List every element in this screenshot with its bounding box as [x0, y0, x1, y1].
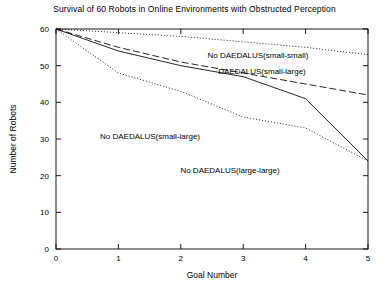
x-axis-ticks: 012345	[54, 29, 371, 263]
x-tick-label: 1	[116, 254, 121, 263]
y-tick-label: 10	[40, 208, 49, 217]
x-tick-label: 0	[54, 254, 59, 263]
series-paths	[56, 29, 368, 161]
axis-titles: Goal NumberNumber of Robots	[8, 105, 237, 280]
y-tick-label: 20	[40, 172, 49, 181]
x-tick-label: 2	[179, 254, 184, 263]
x-tick-label: 3	[241, 254, 246, 263]
y-tick-label: 50	[40, 62, 49, 71]
y-tick-label: 0	[45, 245, 50, 254]
x-tick-label: 4	[303, 254, 308, 263]
y-tick-label: 30	[40, 135, 49, 144]
y-tick-label: 60	[40, 25, 49, 34]
x-axis-title: Goal Number	[187, 270, 238, 280]
y-tick-label: 40	[40, 98, 49, 107]
series-annotation-0: No DAEDALUS(small-small)	[208, 51, 309, 60]
y-axis-ticks: 0102030405060	[40, 25, 368, 254]
series-line-2	[56, 29, 368, 161]
series-line-3	[56, 29, 368, 161]
chart-container: Survival of 60 Robots in Online Environm…	[0, 0, 389, 289]
series-annotation-2: No DAEDALUS(small-large)	[100, 132, 200, 141]
series-annotation-3: No DAEDALUS(large-large)	[180, 166, 279, 175]
x-tick-label: 5	[366, 254, 371, 263]
y-axis-title: Number of Robots	[8, 105, 18, 174]
plot-area: 0102030405060 012345 No DAEDALUS(small-s…	[0, 0, 389, 289]
series-annotation-1: DAEDALUS(small-large)	[218, 67, 306, 76]
